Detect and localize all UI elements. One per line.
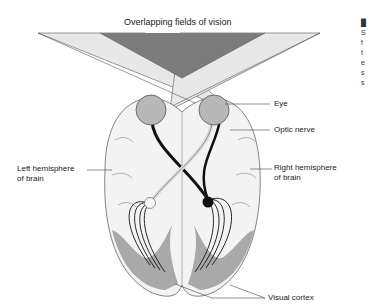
label-optic-nerve: Optic nerve [274,125,315,135]
right-eye [199,95,229,125]
label-eye: Eye [274,99,288,109]
left-lgn [145,198,156,209]
left-eye [136,95,166,125]
label-visual-cortex: Visual cortex [268,293,314,303]
diagram-title: Overlapping fields of vision [124,17,232,27]
visual-pathway-diagram [0,0,371,307]
right-lgn [203,197,214,208]
label-right-hemisphere: Right hemisphere of brain [274,163,337,183]
label-left-hemisphere: Left hemisphere of brain [17,164,74,184]
side-caption-fragment: █ S f t e s s [361,18,366,88]
